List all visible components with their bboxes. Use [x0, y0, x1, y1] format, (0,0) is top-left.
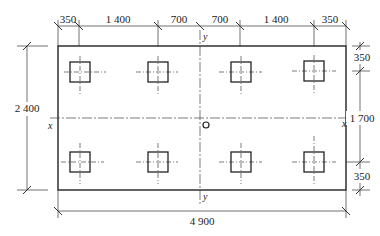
dim-right-bottom: 350 [354, 170, 371, 182]
dim-top-4: 700 [212, 13, 229, 25]
dim-top-5: 1 400 [264, 13, 289, 25]
dim-top-6: 350 [322, 13, 339, 25]
dim-left: 2 400 [15, 102, 40, 114]
foundation-plan-drawing: 350 1 400 700 700 1 400 350 2 400 350 1 … [0, 0, 380, 236]
dim-right-middle: 1 700 [350, 112, 375, 124]
pile [64, 56, 106, 94]
pile [292, 55, 336, 95]
dim-bottom: 4 900 [190, 215, 215, 227]
pile [136, 56, 178, 94]
dim-right-top: 350 [354, 51, 371, 63]
origin-marker [203, 122, 209, 128]
axis-label-y-top: y [202, 31, 208, 42]
pile [219, 56, 262, 94]
pile [61, 143, 104, 184]
dim-top-2: 1 400 [106, 13, 131, 25]
axis-label-x-left: x [47, 120, 53, 131]
dim-top-3: 700 [171, 13, 188, 25]
piles [61, 55, 336, 184]
pile [219, 143, 262, 184]
axis-label-y-bottom: y [202, 191, 208, 202]
pile [136, 143, 178, 184]
left-dimension [17, 42, 48, 194]
dim-top-1: 350 [60, 13, 77, 25]
pile [292, 136, 336, 184]
bottom-dimension [54, 190, 350, 218]
top-dimension-chain [54, 20, 350, 46]
axis-label-x-right: x [341, 118, 347, 129]
